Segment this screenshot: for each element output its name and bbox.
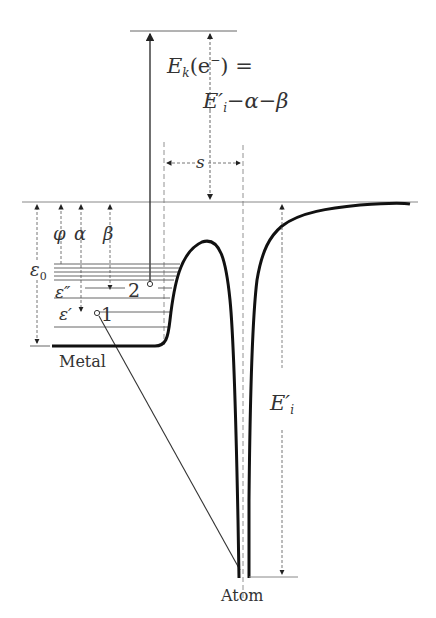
metal-label: Metal [59,352,106,371]
epsilon-double-prime-label: ε″ [55,282,71,302]
level-2-label: 2 [128,279,140,301]
potential-curve [52,241,239,578]
beta-label: β [102,223,113,244]
tunneling-line [99,316,240,570]
alpha-label: α [74,223,86,244]
atom-label: Atom [220,586,264,605]
phi-label: φ [53,223,66,244]
epsilon-prime-label: ε′ [59,304,72,324]
level-1-label: 1 [101,303,113,325]
level-1-marker [94,310,99,315]
epsilon0-label: ε0 [30,259,47,283]
level-2-marker [147,281,152,286]
kinetic-energy-rhs-label: E′i−α−β [202,89,288,115]
energy-diagram: Ek(e−) = E′i−α−β s ε0 φ α β ε″ 2 ε′ 1 Me… [0,0,436,618]
kinetic-energy-label: Ek(e−) = [166,53,253,80]
ionization-energy-label: E′i [269,391,294,417]
distance-s-label: s [196,152,205,172]
